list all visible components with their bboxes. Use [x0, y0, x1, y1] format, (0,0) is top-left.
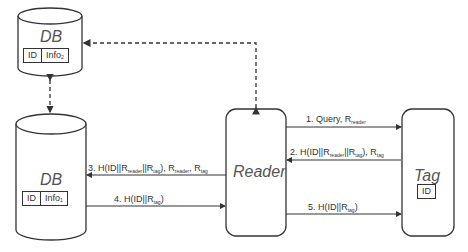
db-bottom-id: ID: [23, 192, 40, 205]
db-top-info: Info2: [41, 49, 68, 62]
tag-id-field: ID: [417, 184, 436, 199]
db-top-title: DB: [40, 28, 62, 46]
message-5: 5. H(ID||Rtag): [308, 202, 358, 215]
db-bottom-title: DB: [40, 171, 62, 189]
reader-title: Reader: [233, 163, 285, 181]
message-1: 1. Query, Rreader: [306, 114, 366, 127]
tag-title: Tag: [414, 167, 440, 185]
db-bottom-table: ID Info1: [22, 191, 68, 206]
message-4: 4. H(ID||Rtag): [114, 194, 164, 207]
protocol-diagram: DB ID Info2 DB ID Info1 Reader Tag ID 1.…: [0, 0, 468, 252]
db-top-table: ID Info2: [23, 48, 69, 63]
message-3: 3. H(ID||Rreader||Rtag), Rreader, Rtag: [88, 163, 208, 176]
db-top-id: ID: [24, 49, 41, 62]
db-bottom-info: Info1: [40, 192, 67, 205]
reader-db-dashed-link: [84, 43, 256, 108]
diagram-shapes: [0, 0, 468, 252]
message-2: 2. H(ID||Rreader||Rtag), Rtag: [290, 147, 384, 160]
